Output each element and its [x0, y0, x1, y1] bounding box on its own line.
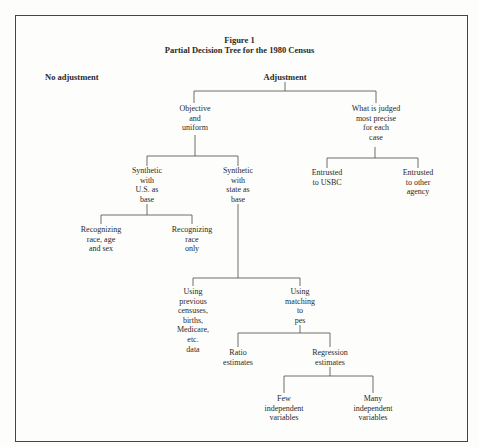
node-judged-most-precise: What is judged most precise for each cas… [352, 104, 400, 142]
node-objective-uniform: Objective and uniform [179, 104, 210, 133]
node-ratio-estimates: Ratio estimates [223, 348, 253, 367]
node-entrusted-usbc: Entrusted to USBC [312, 168, 343, 187]
node-matching-pes: Using matching to pes [285, 287, 315, 325]
node-race-only: Recognizing race only [172, 225, 212, 254]
node-regression-estimates: Regression estimates [312, 348, 348, 367]
node-synthetic-us-base: Synthetic with U.S. as base [132, 166, 162, 204]
node-many-independent-variables: Many independent variables [353, 394, 392, 423]
node-entrusted-other-agency: Entrusted to other agency [403, 168, 434, 197]
node-race-age-sex: Recognizing race, age and sex [81, 225, 121, 254]
tree-connectors [0, 0, 479, 447]
node-synthetic-state-base: Synthetic with state as base [223, 166, 253, 204]
node-previous-censuses: Using previous censuses, births, Medicar… [177, 287, 209, 354]
node-few-independent-variables: Few independent variables [264, 394, 303, 423]
